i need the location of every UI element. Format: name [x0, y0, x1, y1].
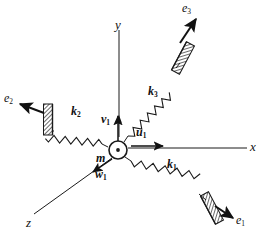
x-axis-label: x [250, 140, 256, 153]
u1-label: u1 [136, 126, 146, 139]
e2-sub: 2 [9, 97, 13, 106]
spring-k3 [121, 63, 180, 142]
u1-sub: 1 [143, 131, 147, 140]
e1-sub: 1 [241, 219, 245, 228]
u1-letter: u [136, 125, 143, 139]
e3-sub: 3 [187, 7, 191, 16]
support-wall-upper-right [172, 42, 195, 74]
e1-label: e1 [236, 214, 245, 227]
v1-sub: 1 [106, 118, 110, 127]
w1-label: w1 [95, 168, 107, 181]
y-axis-label: y [115, 18, 121, 31]
spring-k2 [45, 130, 108, 147]
mass-marker [109, 141, 127, 159]
e3-arrow-line [180, 19, 196, 43]
w1-sub: 1 [103, 173, 107, 182]
spring-k1-sub: 1 [173, 163, 177, 172]
e3-label: e3 [182, 2, 191, 15]
e2-label: e2 [4, 92, 13, 105]
spring-k3-sub: 3 [154, 90, 158, 99]
mass-label: m [96, 152, 105, 164]
spring-k1-label: k1 [167, 158, 177, 171]
z-axis-label: z [26, 216, 31, 229]
v1-label: v1 [101, 113, 110, 126]
diagram-canvas [0, 0, 261, 244]
spring-k2-sub: 2 [77, 110, 81, 119]
support-wall-lower-right [201, 192, 224, 224]
e2-arrow-line [20, 104, 44, 113]
spring-k1 [125, 157, 206, 200]
support-wall-left [44, 104, 53, 135]
spring-k3-label: k3 [148, 85, 158, 98]
spring-mass-diagram: y x z m k1 k2 k3 u1 v1 w1 e1 e2 e3 [0, 0, 261, 244]
spring-k2-label: k2 [71, 105, 81, 118]
w1-letter: w [95, 167, 103, 181]
